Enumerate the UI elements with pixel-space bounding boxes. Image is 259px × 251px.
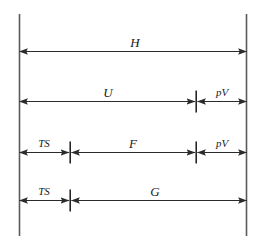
label-f: F [129,137,137,150]
label-h: H [130,36,139,49]
row-ts-g [20,190,247,212]
label-ts-lower: TS [38,186,50,197]
thermodynamic-potentials-diagram: H U pV TS F pV TS G [0,0,259,251]
row-u-pv [20,91,247,113]
label-pv-lower: pV [216,138,228,149]
label-pv-upper: pV [216,87,228,98]
label-u: U [103,86,112,99]
label-g: G [150,185,159,198]
label-ts-upper: TS [38,138,50,149]
